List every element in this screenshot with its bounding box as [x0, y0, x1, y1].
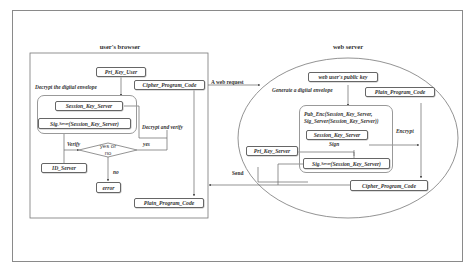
browser-sig-box: Sig_Server(Session_Key_Server)	[38, 118, 131, 129]
server-plain-code-box: Plain_Program_Code	[365, 87, 435, 97]
sig-subscript: _Server	[58, 122, 69, 126]
server-cipher-code-box: Cipher_Program_Code	[350, 180, 428, 191]
generate-envelope-label: Generate a digital envelope	[272, 87, 333, 93]
connector-lines	[0, 0, 474, 274]
server-sig-box: Sig_Server(Session_Key_Server)	[303, 158, 390, 169]
browser-title: user's browser	[100, 43, 141, 50]
browser-cipher-code-box: Cipher_Program_Code	[134, 80, 205, 90]
no-label: no	[113, 169, 119, 175]
sig-arg: (Session_Key_Server)	[331, 161, 381, 167]
browser-session-key-box: Session_Key_Server	[55, 101, 123, 111]
decrypt-verify-label: Decrypt and verify	[142, 124, 183, 130]
server-session-key-box: Session_Key_Server	[306, 130, 368, 140]
decision-line-2: no	[93, 150, 123, 157]
pub-enc-label: Pub_Enc(Session_Key_Server, Sig_Server(S…	[304, 111, 379, 125]
sig-subscript: _Server	[320, 162, 331, 166]
sig-arg: (Session_Key_Server)	[69, 121, 119, 127]
pub-enc-line-2: Sig_Server(Session_Key_Server))	[304, 118, 379, 125]
decision-diamond: yes or no	[93, 143, 123, 157]
send-label: Send	[232, 170, 243, 176]
id-server-box: ID_Server	[41, 163, 87, 173]
sig-prefix: Sig	[312, 161, 319, 167]
pri-key-server-box: Pri_Key_Server	[246, 146, 298, 156]
error-box: error	[96, 182, 121, 193]
verify-label: Verify	[67, 141, 80, 147]
browser-plain-code-box: Plain_Program_Code	[134, 198, 204, 208]
server-title: web server	[333, 43, 363, 50]
yes-label: yes	[143, 141, 150, 147]
pri-key-user-box: Pri_Key_User	[96, 67, 146, 77]
encrypt-label: Encrypt	[396, 128, 414, 134]
decrypt-envelope-label: Decrypt the digital envelope	[35, 84, 97, 90]
sig-prefix: Sig	[50, 121, 57, 127]
public-key-box: web user's public key	[308, 72, 378, 82]
web-request-label: A web request	[211, 79, 244, 85]
sign-label: Sign	[329, 141, 339, 147]
pub-enc-line-1: Pub_Enc(Session_Key_Server,	[304, 111, 379, 118]
decision-line-1: yes or	[93, 143, 123, 150]
